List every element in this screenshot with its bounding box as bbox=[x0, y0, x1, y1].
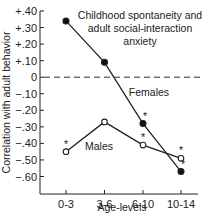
y-axis: +.40+.30+.20+.100−.10−.20−.30−.40−.50−.6… bbox=[0, 5, 44, 194]
y-tick-label: −.60 bbox=[15, 171, 37, 183]
data-point-females bbox=[102, 59, 108, 65]
chart-title-line: anxiety bbox=[123, 35, 157, 47]
x-axis: 0-33-66-1010-14Age-levels bbox=[40, 190, 198, 213]
y-tick-label: +.20 bbox=[15, 38, 37, 50]
data-point-males bbox=[178, 155, 184, 161]
y-tick-label: −.20 bbox=[15, 104, 37, 116]
y-tick-label: −.50 bbox=[15, 154, 37, 166]
line-chart: +.40+.30+.20+.100−.10−.20−.30−.40−.50−.6… bbox=[0, 0, 202, 213]
chart-svg: +.40+.30+.20+.100−.10−.20−.30−.40−.50−.6… bbox=[0, 0, 202, 213]
chart-title-line: adult social-interaction bbox=[88, 22, 193, 34]
y-tick-label: −.40 bbox=[15, 137, 37, 149]
series-label-females: Females bbox=[129, 86, 169, 98]
x-tick-label: 0-3 bbox=[58, 198, 74, 210]
data-point-males bbox=[140, 142, 146, 148]
significance-asterisk: * bbox=[179, 144, 183, 156]
y-tick-label: −.30 bbox=[15, 121, 37, 133]
significance-asterisk: * bbox=[141, 131, 145, 143]
significance-asterisk: * bbox=[143, 110, 147, 122]
series-line-males bbox=[66, 122, 181, 158]
y-axis-label: Correlation with adult behavior bbox=[0, 31, 12, 173]
data-point-males bbox=[102, 119, 108, 125]
y-tick-label: +.30 bbox=[15, 22, 37, 34]
y-tick-label: +.40 bbox=[15, 5, 37, 17]
chart-title-line: Childhood spontaneity and bbox=[78, 9, 202, 21]
y-tick-label: +.10 bbox=[15, 55, 37, 67]
y-tick-label: −.10 bbox=[15, 88, 37, 100]
labels-group: Childhood spontaneity andadult social-in… bbox=[78, 9, 202, 152]
x-tick-label: 10-14 bbox=[167, 198, 195, 210]
data-point-males bbox=[63, 149, 69, 155]
data-point-females bbox=[63, 18, 69, 24]
significance-asterisk: * bbox=[64, 138, 68, 150]
series-label-males: Males bbox=[85, 140, 113, 152]
x-axis-label: Age-levels bbox=[97, 201, 146, 213]
y-tick-label: 0 bbox=[31, 71, 37, 83]
